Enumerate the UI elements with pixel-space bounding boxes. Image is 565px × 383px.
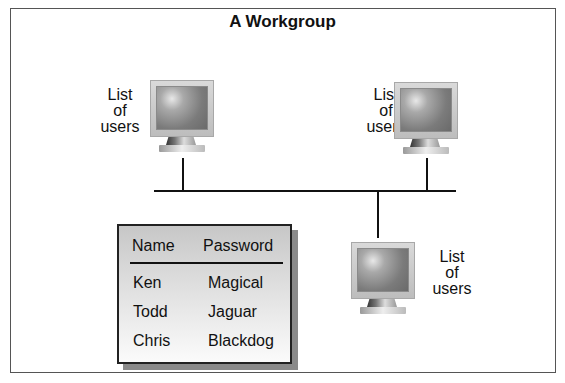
table-cell-password: Blackdog [208, 332, 274, 350]
workstation-3-label: List of users [422, 249, 482, 297]
user-table: Name Password Ken Magical Todd Jaguar Ch… [117, 224, 292, 364]
network-bus [154, 190, 456, 192]
link-workstation-3 [377, 191, 379, 238]
link-workstation-2 [426, 158, 428, 191]
workstation-1-label: List of users [90, 87, 150, 135]
table-cell-name: Chris [133, 332, 170, 350]
table-cell-password: Magical [208, 274, 263, 292]
diagram-title: A Workgroup [0, 12, 565, 32]
link-workstation-1 [182, 158, 184, 191]
workstation-3-monitor-icon [351, 242, 415, 314]
table-cell-name: Ken [133, 274, 161, 292]
header-divider [130, 262, 283, 264]
column-header-name: Name [132, 237, 175, 255]
table-cell-name: Todd [133, 303, 168, 321]
workstation-1-monitor-icon [150, 80, 214, 152]
workstation-2-monitor-icon [394, 82, 458, 154]
table-cell-password: Jaguar [208, 303, 257, 321]
column-header-password: Password [203, 237, 273, 255]
